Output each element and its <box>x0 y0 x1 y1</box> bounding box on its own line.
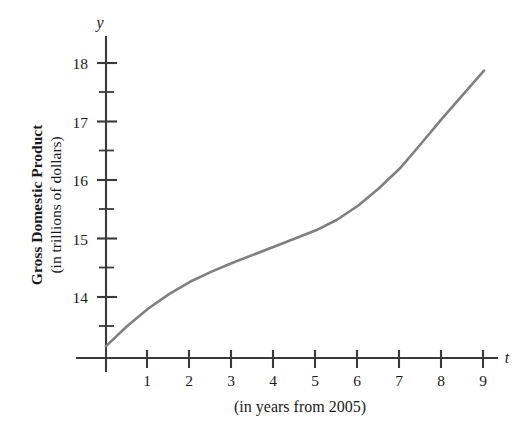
gdp-curve-line <box>106 71 484 347</box>
x-tick-label: 5 <box>311 372 319 389</box>
x-tick-label: 7 <box>395 372 403 389</box>
x-axis-tick-labels: 1 2 3 4 5 6 7 8 9 <box>143 372 487 389</box>
x-tick-label: 8 <box>437 372 445 389</box>
y-tick-label: 17 <box>73 114 89 131</box>
chart-plot-area: 18 17 16 15 14 1 2 3 4 5 6 7 8 <box>0 0 518 431</box>
y-axis-variable-label: y <box>94 14 104 32</box>
x-axis-variable-label: t <box>505 349 510 366</box>
x-tick-label: 4 <box>269 372 277 389</box>
y-tick-label: 15 <box>73 231 89 248</box>
gdp-line-chart-figure: 18 17 16 15 14 1 2 3 4 5 6 7 8 <box>0 0 518 431</box>
x-tick-label: 2 <box>185 372 193 389</box>
y-tick-label: 18 <box>73 55 89 72</box>
y-axis-tick-labels: 18 17 16 15 14 <box>73 55 89 306</box>
x-axis-caption: (in years from 2005) <box>110 398 490 416</box>
x-tick-label: 9 <box>479 372 487 389</box>
y-tick-label: 14 <box>73 289 89 306</box>
x-tick-label: 6 <box>353 372 361 389</box>
x-tick-label: 1 <box>143 372 151 389</box>
y-tick-label: 16 <box>73 172 89 189</box>
x-tick-label: 3 <box>227 372 235 389</box>
